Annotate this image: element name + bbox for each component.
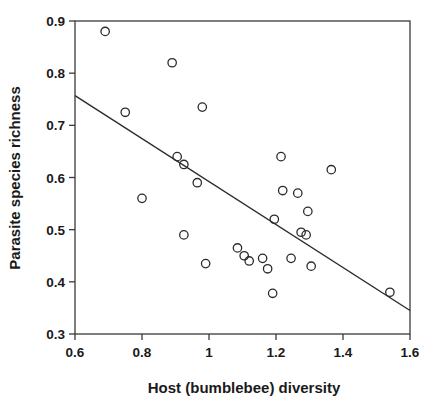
data-point-marker [180, 160, 188, 168]
x-tick-label: 0.8 [133, 345, 152, 360]
y-tick-label: 0.6 [46, 171, 65, 186]
data-point-marker [198, 103, 206, 111]
data-point-marker [263, 265, 271, 273]
data-point-marker [294, 189, 302, 197]
y-axis-ticks: 0.30.40.50.60.70.80.9 [46, 14, 75, 342]
y-tick-label: 0.4 [46, 275, 65, 290]
data-point-marker [304, 207, 312, 215]
data-point-marker [386, 288, 394, 296]
data-point-marker [240, 252, 248, 260]
data-point-marker [270, 215, 278, 223]
data-point-marker [245, 257, 253, 265]
data-point-marker [287, 254, 295, 262]
data-point-marker [201, 259, 209, 267]
plot-frame [75, 21, 410, 334]
data-point-marker [279, 186, 287, 194]
data-point-marker [277, 152, 285, 160]
y-tick-label: 0.7 [46, 118, 65, 133]
data-points [101, 27, 394, 297]
data-point-marker [168, 59, 176, 67]
y-axis-title: Parasite species richness [6, 86, 23, 269]
data-point-marker [297, 228, 305, 236]
x-tick-label: 1.4 [334, 345, 353, 360]
y-tick-label: 0.8 [46, 66, 65, 81]
data-point-marker [193, 179, 201, 187]
x-tick-label: 1 [205, 345, 213, 360]
x-axis-title: Host (bumblebee) diversity [148, 379, 341, 396]
data-point-marker [268, 289, 276, 297]
scatter-plot-figure: 0.60.811.21.41.6 0.30.40.50.60.70.80.9 H… [0, 0, 428, 407]
plot-border [75, 21, 410, 334]
data-point-marker [121, 108, 129, 116]
data-point-marker [258, 254, 266, 262]
data-point-marker [307, 262, 315, 270]
trend-line [75, 96, 410, 311]
data-point-marker [101, 27, 109, 35]
data-point-marker [138, 194, 146, 202]
data-point-marker [302, 231, 310, 239]
regression-line [75, 96, 410, 311]
data-point-marker [233, 244, 241, 252]
x-tick-label: 1.2 [267, 345, 286, 360]
y-tick-label: 0.3 [46, 327, 65, 342]
data-point-marker [327, 165, 335, 173]
data-point-marker [180, 231, 188, 239]
data-point-marker [173, 152, 181, 160]
x-tick-label: 1.6 [401, 345, 420, 360]
y-tick-label: 0.9 [46, 14, 65, 29]
x-tick-label: 0.6 [66, 345, 85, 360]
plot-canvas: 0.60.811.21.41.6 0.30.40.50.60.70.80.9 H… [0, 0, 428, 407]
x-axis-ticks: 0.60.811.21.41.6 [66, 334, 420, 360]
y-tick-label: 0.5 [46, 223, 65, 238]
